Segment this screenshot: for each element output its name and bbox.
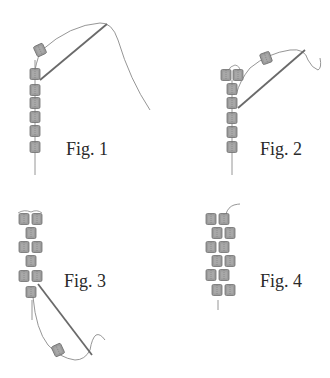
figure-4: Fig. 4 [206, 204, 302, 310]
figure-label: Fig. 3 [64, 271, 106, 291]
figure-label: Fig. 1 [66, 139, 108, 159]
figure-1: Fig. 1 [30, 23, 150, 175]
needle [40, 24, 107, 80]
beading-diagram: Fig. 1 Fig. 2 [0, 0, 330, 378]
bead-strand [30, 43, 47, 153]
bead-strand [206, 214, 235, 296]
bead-strand [221, 51, 273, 152]
figure-2: Fig. 2 [221, 50, 321, 175]
figure-label: Fig. 2 [260, 139, 302, 159]
figure-label: Fig. 4 [260, 271, 302, 291]
figure-3: Fig. 3 [18, 211, 106, 360]
needle [38, 284, 92, 355]
